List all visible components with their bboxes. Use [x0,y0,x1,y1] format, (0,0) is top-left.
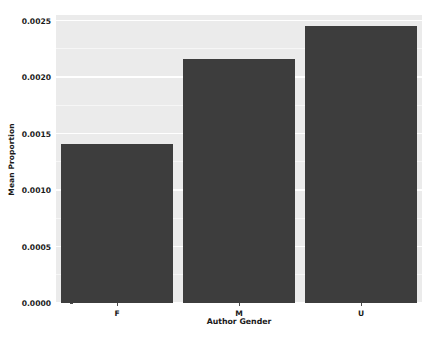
bar-f [61,144,174,303]
bar-u [305,26,418,303]
x-tick-mark [117,303,118,306]
plot-panel [56,15,422,303]
x-tick-mark [239,303,240,306]
y-axis-tick-labels: 0.00000.00050.00100.00150.00200.0025 [18,0,51,340]
y-tick-label: 0.0025 [18,16,51,25]
y-tick-label: 0.0020 [18,73,51,82]
bar-chart-figure: Mean Proportion 0.00000.00050.00100.0015… [0,0,436,340]
y-tick-label: 0.0000 [18,299,51,308]
y-tick-label: 0.0015 [18,129,51,138]
y-tick-label: 0.0010 [18,186,51,195]
gridline-major [56,20,422,21]
x-tick-mark [361,303,362,306]
x-axis-title: Author Gender [56,317,422,326]
y-tick-label: 0.0005 [18,242,51,251]
bar-m [183,59,296,303]
y-axis-title-text: Mean Proportion [7,123,16,195]
